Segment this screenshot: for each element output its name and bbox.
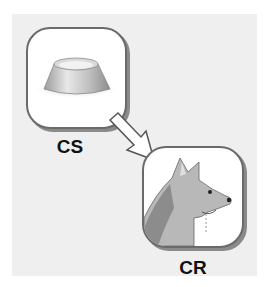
salivating-dog-icon	[144, 148, 242, 246]
cr-label: CR	[163, 257, 223, 279]
cr-box	[142, 146, 244, 248]
